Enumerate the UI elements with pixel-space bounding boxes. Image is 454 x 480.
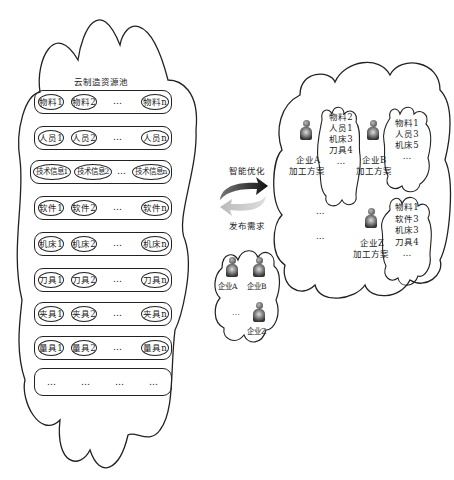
plan-z-line2: 加工方案 [353,248,389,260]
ellipsis: … [149,376,158,388]
resource: 机床3 [392,225,422,237]
row-machine: 机床1 机床2 … 机床n [34,232,172,256]
row-personnel: 人员1 人员2 … 人员n [34,126,172,150]
plan-ellipsis-2: … [316,230,325,242]
request-label: 发布需求 [229,220,265,232]
ellipsis: … [81,376,90,388]
enterprise-z-label: 企业Z [247,325,266,336]
pill: 刀具1 [38,272,64,288]
resource: … [392,248,422,260]
pill: 软件2 [71,200,97,216]
ellipsis: … [117,165,126,177]
plan-b-person-icon [367,120,379,140]
pill: 软件n [141,200,169,216]
row-fixture: 夹具1 夹具2 … 夹具n [34,302,172,326]
enterprise-a-person-icon [226,257,238,277]
plan-z-resources: 物料1 软件3 机床3 刀具4 … [392,202,422,260]
optimize-arrow-icon [220,177,268,200]
resource: 人员1 [326,123,356,134]
row-more: … … … … [34,368,172,396]
row-software: 软件1 软件2 … 软件n [34,196,172,220]
ellipsis: … [113,307,122,319]
enterprise-z-person-icon [253,302,265,322]
enterprise-ellipsis: … [232,308,240,317]
enterprise-a-label: 企业A [218,280,237,291]
resource: 人员3 [392,129,422,140]
resource: 物料2 [326,112,356,123]
ellipsis: … [113,341,122,353]
plan-a-line2: 加工方案 [289,165,325,177]
pill: 物料2 [71,94,97,110]
plan-a-person-icon [300,120,312,140]
optimize-label: 智能优化 [229,165,265,177]
pill: 机床n [141,236,169,252]
pill: 技术信息1 [33,164,71,180]
row-tool: 刀具1 刀具2 … 刀具n [34,268,172,292]
pill: 夹具1 [38,306,64,322]
resource: … [326,156,356,167]
request-arrow-icon [220,196,266,216]
plan-b-line2: 加工方案 [356,165,392,177]
pill: 物料1 [38,94,64,110]
pill: 软件1 [38,200,64,216]
row-tech-info: 技术信息1 技术信息2 … 技术信息n [30,160,172,184]
ellipsis: … [113,237,122,249]
enterprise-b-person-icon [253,257,265,277]
resource: 刀具4 [392,237,422,249]
row-gauge: 量具1 量具2 … 量具n [34,336,172,360]
ellipsis: … [113,131,122,143]
resource: … [392,151,422,162]
pill: 技术信息n [132,164,170,180]
row-material: 物料1 物料2 … 物料n [34,90,172,114]
resource: 软件3 [392,214,422,226]
ellipsis: … [115,376,124,388]
ellipsis: … [113,95,122,107]
resource: 机床5 [392,140,422,151]
pill: 量具n [141,340,169,356]
ellipsis: … [47,376,56,388]
plan-a-resources: 物料2 人员1 机床3 刀具4 … [326,112,356,167]
pill: 物料n [141,94,169,110]
pill: 人员2 [71,130,97,146]
plan-z-person-icon [365,208,377,228]
resource: 机床3 [326,134,356,145]
pill: 机床2 [71,236,97,252]
pill: 技术信息2 [74,164,112,180]
pill: 机床1 [38,236,64,252]
plan-ellipsis-1: … [316,205,325,217]
pill: 人员n [141,130,169,146]
enterprise-b-label: 企业B [247,280,267,291]
pill: 人员1 [38,130,64,146]
pill: 刀具n [141,272,169,288]
resource: 刀具4 [326,145,356,156]
pill: 夹具2 [71,306,97,322]
pool-title: 云制造资源池 [74,76,128,88]
resource: 物料1 [392,118,422,129]
resource: 物料1 [392,202,422,214]
ellipsis: … [113,273,122,285]
pill: 夹具n [141,306,169,322]
pill: 刀具2 [71,272,97,288]
pill: 量具2 [71,340,97,356]
ellipsis: … [113,201,122,213]
pill: 量具1 [38,340,64,356]
plan-b-resources: 物料1 人员3 机床5 … [392,118,422,162]
